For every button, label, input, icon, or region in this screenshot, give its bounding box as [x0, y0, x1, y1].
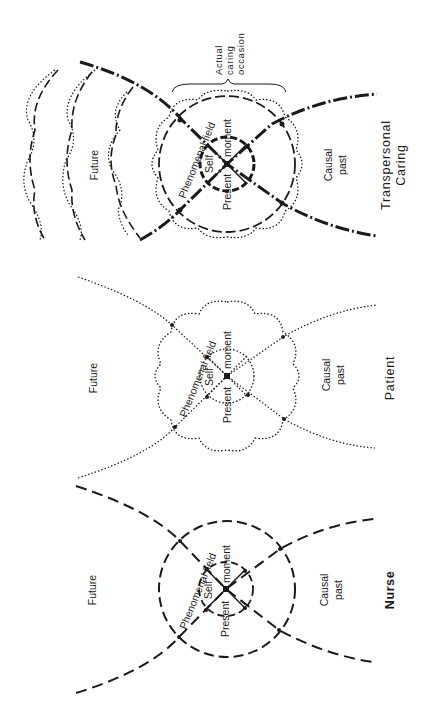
- moment-label: moment: [221, 119, 233, 157]
- future-label: Future: [88, 150, 100, 181]
- causal-past-label: Causal: [320, 359, 332, 392]
- panel-title: Transpersonal: [379, 120, 393, 210]
- future-wave-lines: [24, 70, 140, 240]
- center-point: [224, 373, 230, 379]
- panel-transpersonal: Actual caring occasion Future Causal pas…: [24, 33, 408, 240]
- causal-past-label: Causal: [322, 149, 334, 182]
- causal-past-label: past: [336, 155, 348, 175]
- brace-label: caring: [224, 46, 235, 75]
- panel-patient: Future Causal past Patient Self Present …: [78, 277, 397, 478]
- brace-label: occasion: [235, 33, 246, 75]
- panel-title: Patient: [383, 356, 397, 401]
- center-point: [224, 161, 230, 167]
- present-label: Present: [221, 387, 233, 423]
- causal-past-label: past: [334, 365, 346, 385]
- moment-label: moment: [221, 331, 233, 369]
- self-label: Self: [203, 155, 215, 173]
- causal-past-label: past: [332, 580, 344, 600]
- caring-occasion-brace: [172, 79, 286, 92]
- panel-title: Caring: [394, 144, 408, 186]
- moment-label: moment: [220, 545, 232, 583]
- causal-past-label: Causal: [318, 574, 330, 607]
- transpersonal-caring-diagram: Actual caring occasion Future Causal pas…: [0, 0, 422, 716]
- future-label: Future: [86, 575, 98, 606]
- future-label: Future: [87, 363, 99, 394]
- brace-label: Actual: [213, 45, 224, 75]
- present-label: Present: [221, 174, 233, 210]
- panel-title: Nurse: [383, 571, 397, 609]
- panel-nurse: Future Causal past Nurse Self Present mo…: [76, 486, 397, 693]
- center-point: [223, 586, 229, 592]
- present-label: Present: [219, 601, 231, 637]
